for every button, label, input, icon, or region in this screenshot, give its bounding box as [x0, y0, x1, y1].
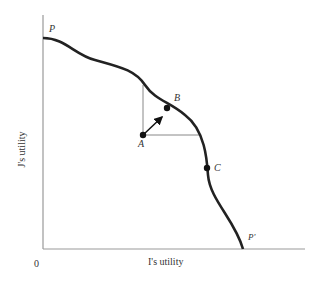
label-p-prime: P' — [248, 232, 255, 242]
move-arrow — [143, 117, 162, 135]
y-axis-label: J's utility — [16, 125, 27, 175]
label-c: C — [214, 162, 221, 173]
label-p: P — [49, 23, 55, 34]
x-axis-label: I's utility — [148, 256, 183, 267]
utility-possibility-frontier-diagram — [0, 0, 327, 284]
origin-label: 0 — [34, 258, 39, 269]
point-b — [164, 105, 170, 111]
point-c — [204, 165, 210, 171]
label-b: B — [174, 92, 180, 103]
label-a: A — [138, 138, 144, 149]
